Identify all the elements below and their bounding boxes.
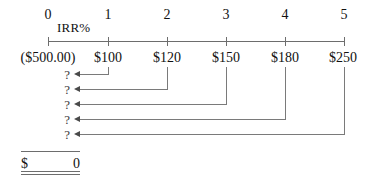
- cash-flow-period-1: $100: [81, 51, 135, 65]
- total-value: 0: [50, 157, 80, 171]
- period-number-1: 1: [88, 8, 128, 22]
- total-double-rule-upper: [21, 171, 80, 172]
- present-value-row-2: ?: [56, 83, 70, 96]
- period-number-3: 3: [206, 8, 246, 22]
- period-number-4: 4: [265, 8, 305, 22]
- axis-tick-4: [285, 37, 286, 46]
- connector-horizontal-row-3: [80, 104, 227, 105]
- irr-cash-flow-diagram: 0 1 2 3 4 5 IRR% ($500.00) $100 $120 $15…: [0, 0, 369, 184]
- cash-flow-period-2: $120: [140, 51, 194, 65]
- present-value-row-5: ?: [56, 128, 70, 141]
- period-number-2: 2: [147, 8, 187, 22]
- axis-tick-5: [344, 37, 345, 46]
- period-number-5: 5: [324, 8, 364, 22]
- cash-flow-period-3: $150: [199, 51, 253, 65]
- irr-rate-label: IRR%: [57, 21, 90, 34]
- cash-flow-period-5: $250: [316, 51, 369, 65]
- connector-horizontal-row-4: [80, 119, 286, 120]
- axis-tick-2: [167, 37, 168, 46]
- connector-vertical-row-2: [167, 67, 168, 90]
- cash-flow-period-4: $180: [258, 51, 312, 65]
- timeline-axis: [48, 41, 345, 42]
- connector-vertical-row-3: [226, 67, 227, 105]
- present-value-row-1: ?: [56, 68, 70, 81]
- connector-vertical-row-1: [108, 67, 109, 75]
- cash-flow-period-0: ($500.00): [8, 51, 88, 65]
- connector-vertical-row-5: [344, 67, 345, 135]
- total-currency-symbol: $: [21, 157, 28, 171]
- present-value-row-4: ?: [56, 113, 70, 126]
- total-double-rule-lower: [21, 174, 80, 175]
- present-value-row-3: ?: [56, 98, 70, 111]
- connector-horizontal-row-5: [80, 134, 345, 135]
- total-top-rule: [21, 151, 80, 152]
- axis-tick-1: [108, 37, 109, 46]
- connector-vertical-row-4: [285, 67, 286, 120]
- axis-tick-3: [226, 37, 227, 46]
- axis-tick-0: [48, 37, 49, 46]
- connector-horizontal-row-2: [80, 89, 168, 90]
- connector-horizontal-row-1: [80, 74, 108, 75]
